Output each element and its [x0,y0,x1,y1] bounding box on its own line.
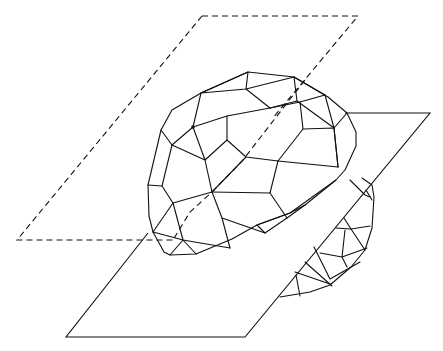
dashed-plane [17,16,358,240]
marked-vertex [191,125,195,129]
diagram-svg [0,0,443,351]
polyhedron [148,72,356,255]
solid-plane [66,113,430,337]
diagram-canvas: Line drawing of a faceted polyhedral sph… [0,0,443,351]
